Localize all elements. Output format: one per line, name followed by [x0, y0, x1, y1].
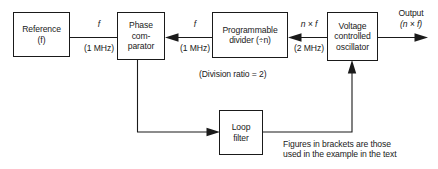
arrowhead-into-divider	[288, 33, 302, 41]
block-reference-label: Reference (f)	[21, 24, 62, 45]
block-programmable-divider-label: Programmable divider (÷n)	[221, 25, 278, 46]
arrowhead-into-vco	[348, 60, 356, 74]
block-loop-filter-label: Loop filter	[231, 122, 252, 143]
label-vco-signal: n × f	[288, 19, 330, 29]
annotation-division-ratio: (Division ratio = 2)	[199, 69, 319, 79]
block-phase-comparator-label: Phase com- parator	[127, 20, 156, 51]
label-divider-signal: f	[174, 19, 216, 29]
block-voltage-controlled-oscillator: Voltage controlled oscillator	[327, 12, 378, 61]
block-programmable-divider: Programmable divider (÷n)	[212, 12, 288, 58]
label-output: Output	[386, 8, 436, 18]
label-reference-signal: f	[78, 19, 120, 29]
block-voltage-controlled-oscillator-label: Voltage controlled oscillator	[333, 21, 371, 52]
block-loop-filter: Loop filter	[219, 110, 263, 155]
annotation-brackets-note: Figures in brackets are those used in th…	[283, 139, 438, 160]
label-output-signal: (n × f)	[386, 19, 436, 29]
arrowhead-into-loop-filter	[207, 128, 221, 136]
block-reference: Reference (f)	[13, 12, 70, 57]
arrowhead-output	[415, 33, 429, 41]
label-divider-frequency: (1 MHz)	[170, 43, 220, 53]
block-phase-comparator: Phase com- parator	[117, 12, 165, 60]
label-reference-frequency: (1 MHz)	[74, 43, 124, 53]
pll-block-diagram: Reference (f) Phase com- parator Program…	[0, 0, 438, 169]
label-vco-frequency: (2 MHz)	[284, 43, 334, 53]
arrowhead-into-phase-comparator-right	[165, 33, 179, 41]
